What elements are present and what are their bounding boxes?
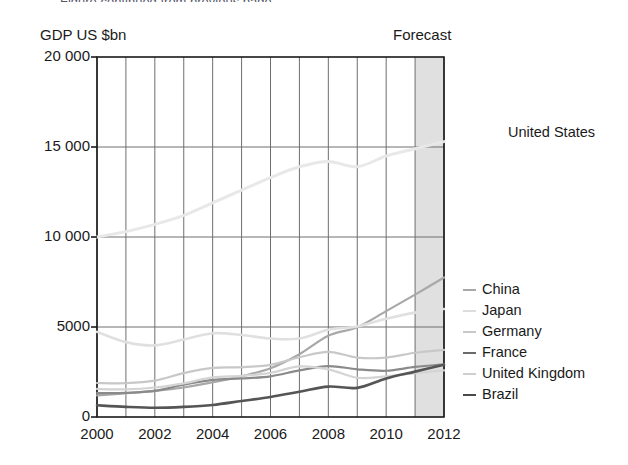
legend-label-japan: Japan [482,302,522,318]
legend-marker-united-kingdom [463,373,476,375]
legend-marker-germany [463,331,476,333]
chart-figure: Figure continued from previous page GDP … [0,0,628,465]
legend-marker-brazil [463,394,476,396]
legend-label-germany: Germany [482,323,542,339]
plot-area [0,0,628,465]
legend-label-united-states: United States [508,124,595,140]
legend-label-france: France [482,344,527,360]
legend-label-china: China [482,281,520,297]
legend-marker-japan [463,310,476,312]
legend-label-brazil: Brazil [482,386,518,402]
legend-marker-france [463,352,476,354]
legend-marker-china [463,289,476,291]
legend-label-united-kingdom: United Kingdom [482,365,585,381]
